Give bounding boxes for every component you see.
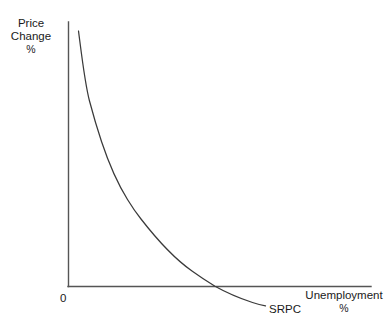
origin-label: 0 (60, 292, 66, 305)
x-axis-unit: % (298, 302, 390, 315)
x-axis-label-text: Unemployment (298, 289, 390, 302)
y-axis-label-line1: Price (0, 17, 62, 30)
srpc-curve-label: SRPC (269, 303, 301, 316)
phillips-curve-chart: Price Change % 0 Unemployment % SRPC (0, 0, 390, 333)
y-axis-label-line2: Change (0, 30, 62, 43)
y-axis-label: Price Change % (0, 17, 62, 56)
y-axis-unit: % (0, 43, 62, 56)
x-axis-label: Unemployment % (298, 289, 390, 315)
